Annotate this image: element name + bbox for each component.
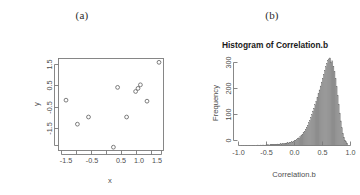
histogram-bar (340, 121, 341, 146)
histogram-bar (337, 95, 338, 145)
histogram-bar (312, 115, 313, 146)
histogram-bar (333, 66, 334, 145)
histogram-y-tick-2: 100 (224, 109, 233, 121)
histogram-bar (289, 142, 290, 145)
scatter-point (125, 115, 129, 119)
histogram-bar (335, 79, 336, 146)
scatter-y-tick-4: -1.5 (45, 122, 54, 134)
histogram-bar (306, 127, 307, 145)
histogram-bar (316, 101, 317, 145)
scatter-plot-frame (59, 59, 164, 151)
scatter-x-axis-title: x (108, 176, 112, 185)
histogram-bar (297, 139, 298, 145)
scatter-y-tick-2: 0.5 (45, 81, 54, 91)
scatter-x-tick-3: 0.5 (116, 156, 126, 165)
histogram-bar (313, 111, 314, 145)
histogram-bar (319, 90, 320, 146)
histogram-bar (325, 67, 326, 146)
scatter-y-axis-title: y (32, 102, 41, 106)
histogram-bar (302, 134, 303, 145)
scatter-point (116, 85, 120, 89)
histogram-bar (292, 142, 293, 145)
histogram-y-tick-labels: 0 100 200 300 (224, 57, 233, 143)
histogram-bar (299, 138, 300, 146)
scatter-point (145, 99, 149, 103)
scatter-point (136, 87, 140, 91)
histogram-bar (346, 142, 347, 146)
histogram-bar (296, 140, 297, 145)
scatter-x-tick-1: -1.5 (60, 156, 72, 165)
histogram-x-tick-4: 0.5 (318, 148, 328, 157)
histogram-bar (305, 129, 306, 145)
histogram-bar (344, 137, 345, 145)
panel-b-histogram: (b) Histogram of Correlation.b 0 100 200… (180, 0, 360, 195)
histogram-bar (331, 62, 332, 146)
histogram-x-tick-3: 0.0 (290, 148, 300, 157)
histogram-x-tick-1: -1.0 (232, 148, 244, 157)
scatter-x-tick-labels: -1.5 -0.5 0.5 1.0 1.5 (60, 156, 162, 165)
histogram-bar (308, 123, 309, 146)
panel-a-scatter: (a) 1.5 0.5 -0.5 -1.5 y (0, 0, 180, 195)
histogram-bar (343, 133, 344, 145)
histogram-y-tick-4: 300 (224, 57, 233, 69)
histogram-title: Histogram of Correlation.b (222, 40, 328, 50)
histogram-bar (334, 72, 335, 146)
histogram-plot-svg: Histogram of Correlation.b 0 100 200 300… (180, 0, 360, 195)
histogram-bar (328, 60, 329, 145)
histogram-x-tick-5: 1.0 (346, 148, 356, 157)
scatter-x-tick-4: 1.0 (134, 156, 144, 165)
histogram-x-tick-2: -0.5 (260, 148, 272, 157)
histogram-bar (336, 86, 337, 145)
histogram-bar (345, 140, 346, 145)
figure-container: (a) 1.5 0.5 -0.5 -1.5 y (0, 0, 360, 195)
histogram-bar (309, 120, 310, 145)
histogram-bar (332, 61, 333, 146)
histogram-x-axis-title: Correlation.b (272, 170, 315, 179)
scatter-x-axis (62, 151, 162, 155)
scatter-point (64, 98, 68, 102)
histogram-y-tick-3: 200 (224, 83, 233, 95)
histogram-bar (298, 139, 299, 146)
scatter-point (157, 60, 161, 64)
histogram-bar (320, 86, 321, 146)
scatter-point (112, 145, 116, 149)
histogram-bar (300, 137, 301, 146)
histogram-bar (329, 59, 330, 146)
histogram-bar (314, 108, 315, 145)
scatter-y-tick-labels: 1.5 0.5 -0.5 -1.5 (45, 60, 54, 135)
histogram-bar (321, 82, 322, 145)
scatter-point (76, 122, 80, 126)
histogram-bar (338, 104, 339, 145)
histogram-bar (311, 117, 312, 145)
scatter-x-tick-5: 1.5 (152, 156, 162, 165)
scatter-y-tick-1: 1.5 (45, 60, 54, 70)
histogram-bar (341, 128, 342, 146)
scatter-y-tick-3: -0.5 (45, 101, 54, 113)
histogram-bar (317, 97, 318, 145)
histogram-bar (291, 142, 292, 146)
histogram-y-axis (234, 63, 238, 141)
scatter-data-points (64, 60, 161, 149)
scatter-point (87, 115, 91, 119)
histogram-y-tick-1: 0 (224, 139, 233, 143)
histogram-bar (318, 94, 319, 146)
histogram-bars (241, 58, 348, 146)
scatter-y-axis (55, 65, 59, 146)
histogram-bar (304, 131, 305, 145)
histogram-bar (324, 70, 325, 145)
histogram-bar (339, 113, 340, 145)
histogram-bar (301, 136, 302, 146)
scatter-plot-svg: 1.5 0.5 -0.5 -1.5 y -1.5 -0.5 (0, 0, 180, 195)
histogram-bar (315, 105, 316, 146)
histogram-bar (323, 74, 324, 145)
histogram-bar (327, 63, 328, 145)
histogram-y-axis-title: Frequency (211, 85, 220, 121)
histogram-bar (330, 58, 331, 146)
histogram-bar (307, 125, 308, 145)
histogram-x-tick-labels: -1.0 -0.5 0.0 0.5 1.0 (232, 148, 355, 157)
scatter-point (139, 83, 143, 87)
histogram-bar (303, 133, 304, 146)
histogram-bar (322, 78, 323, 145)
scatter-x-tick-2: -0.5 (86, 156, 98, 165)
